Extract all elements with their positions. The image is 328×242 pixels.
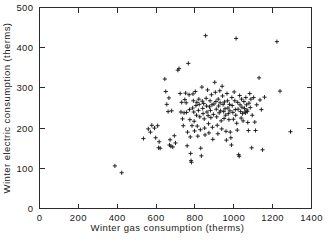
data-point-marker [215,115,219,119]
data-point-marker [235,121,239,125]
data-point-marker [190,124,194,128]
data-point-marker [166,110,170,114]
data-point-marker [185,144,189,148]
data-point-marker [154,136,158,140]
data-point-marker [239,97,243,101]
data-point-marker [202,117,206,121]
axis-titles: Winter gas consumption (therms)Winter el… [1,23,244,233]
data-point-marker [230,95,234,99]
data-point-marker [220,94,224,98]
data-point-marker [146,127,150,131]
data-point-marker [234,113,238,117]
data-point-marker [246,120,250,124]
y-tick-label: 400 [16,42,33,53]
data-point-marker [232,90,236,94]
data-point-marker [150,123,154,127]
data-point-marker [207,105,211,109]
data-point-marker [120,171,124,175]
data-point-marker [229,136,233,140]
data-point-marker [199,154,203,158]
y-axis-title: Winter electric consumption (therms) [1,23,12,194]
data-point-marker [224,129,228,133]
data-point-marker [260,148,264,152]
data-point-marker [234,36,238,40]
data-point-marker [213,90,217,94]
y-tick-label: 500 [16,2,33,13]
data-point-marker [168,138,172,142]
data-point-marker [184,110,188,114]
data-point-marker [201,106,205,110]
data-point-marker [192,129,196,133]
data-point-marker [188,135,192,139]
plot-frame [40,8,312,209]
data-point-marker [211,137,215,141]
data-point-marker [148,130,152,134]
data-point-marker [170,109,174,113]
data-point-marker [201,112,205,116]
y-tick-label: 100 [16,163,33,174]
data-point-marker [181,124,185,128]
data-point-marker [203,126,207,130]
x-tick-label: 1400 [300,212,323,223]
data-point-marker [220,84,224,88]
data-point-marker [227,118,231,122]
data-point-marker [180,117,184,121]
data-point-marker [258,98,262,102]
data-points [113,34,293,175]
data-point-marker [216,97,220,101]
data-point-marker [242,99,246,103]
data-point-marker [210,125,214,129]
data-point-marker [228,130,232,134]
data-point-marker [253,128,257,132]
data-point-marker [172,134,176,138]
data-point-marker [209,116,213,120]
data-point-marker [180,100,184,104]
data-point-marker [204,96,208,100]
data-point-marker [193,89,197,93]
y-tick-label: 300 [16,82,33,93]
x-tick-label: 1200 [261,212,284,223]
data-point-marker [236,107,240,111]
data-point-marker [178,91,182,95]
data-point-marker [173,141,177,145]
data-point-marker [207,131,211,135]
data-point-marker [238,93,242,97]
data-point-marker [156,124,160,128]
data-point-marker [206,122,210,126]
data-point-marker [259,108,263,112]
data-point-marker [113,164,117,168]
scatter-plot-figure: 0200400600800100012001400010020030040050… [0,0,328,242]
data-point-marker [235,128,239,132]
data-point-marker [248,91,252,95]
data-point-marker [288,130,292,134]
data-point-marker [164,89,168,93]
data-point-marker [167,96,171,100]
data-point-marker [196,108,200,112]
data-point-marker [165,102,169,106]
data-point-marker [215,123,219,127]
data-point-marker [163,77,167,81]
data-point-marker [219,119,223,123]
data-point-marker [257,76,261,80]
data-point-marker [246,128,250,132]
data-point-marker [250,113,254,117]
data-point-marker [186,61,190,65]
data-point-marker [192,119,196,123]
data-point-marker [189,151,193,155]
data-point-marker [179,110,183,114]
data-point-marker [244,95,248,99]
data-point-marker [225,91,229,95]
data-point-marker [220,127,224,131]
data-point-marker [250,146,254,150]
data-point-marker [248,105,252,109]
data-point-marker [206,114,210,118]
data-point-marker [231,117,235,121]
data-point-marker [188,118,192,122]
data-point-marker [209,93,213,97]
data-point-marker [199,146,203,150]
x-tick-label: 200 [70,212,87,223]
data-point-marker [213,80,217,84]
data-point-marker [185,130,189,134]
data-point-marker [253,120,257,124]
data-point-marker [255,103,259,107]
